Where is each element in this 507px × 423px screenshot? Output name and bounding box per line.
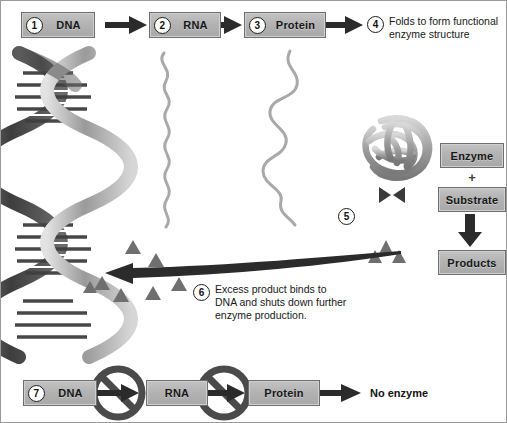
enzyme-box[interactable]: Enzyme [440,143,504,168]
products-label: Products [439,257,505,269]
enzyme-label: Enzyme [441,150,503,162]
step7-dna-box[interactable]: 7 DNA [23,380,97,406]
step-number-3: 3 [249,17,266,34]
step1-dna-box[interactable]: 1 DNA [21,12,95,38]
dna-double-helix-icon [0,53,131,357]
step4-annotation: Folds to form functional enzyme structur… [389,15,504,41]
step7-label: DNA [45,387,96,399]
substrate-box[interactable]: Substrate [438,187,506,212]
step2-label: RNA [171,19,220,31]
prohibition-sign-icon [94,369,142,417]
step-number-1: 1 [26,17,43,34]
step-number-5: 5 [338,208,355,225]
step-number-6: 6 [193,284,210,301]
figure-canvas: 1 DNA 2 RNA 3 Protein 4 Folds to form fu… [0,0,507,423]
rna-strand-icon [162,53,170,227]
feedback-arrow-left-icon [105,251,401,284]
step3-protein-box[interactable]: 3 Protein [244,12,326,38]
arrow-right-icon [97,384,139,402]
step6-annotation: Excess product binds to DNA and shuts do… [215,283,380,322]
arrow-right-icon [313,384,361,402]
substrate-label: Substrate [439,194,505,206]
plus-sign: + [440,170,504,185]
step-number-7: 7 [28,385,45,402]
products-box[interactable]: Products [438,250,506,275]
bottom-protein-label: Protein [249,387,319,399]
substrate-bowtie-icon [379,187,405,203]
step3-label: Protein [266,19,325,31]
bottom-protein-box[interactable]: Protein [248,380,320,406]
folded-enzyme-globule-icon [366,118,430,178]
bottom-rna-box[interactable]: RNA [146,380,208,406]
product-triangle-icon [368,240,406,263]
protein-chain-icon [263,51,297,225]
bottom-rna-label: RNA [147,387,207,399]
step-number-4: 4 [367,16,384,33]
arrow-right-icon [203,384,245,402]
no-enzyme-label: No enzyme [370,387,428,399]
step1-label: DNA [43,19,94,31]
figure-artwork-layer [1,1,507,423]
step-number-2: 2 [154,17,171,34]
step2-rna-box[interactable]: 2 RNA [149,12,221,38]
product-triangle-icon [83,240,187,302]
arrow-down-icon [458,214,482,247]
